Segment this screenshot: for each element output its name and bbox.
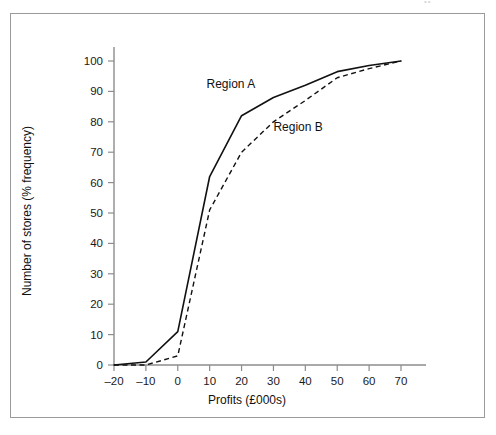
figure-root: •• 0102030405060708090100 –20–1001020304…	[0, 0, 496, 435]
x-axis-tick-label: 10	[203, 375, 216, 387]
x-axis-tick-label: 70	[395, 375, 408, 387]
y-axis-tick-label: 90	[90, 85, 103, 97]
cumulative-frequency-chart: 0102030405060708090100 –20–1001020304050…	[11, 14, 483, 416]
y-axis-tick-label: 50	[90, 207, 103, 219]
x-axis: –20–10010203040506070	[104, 365, 426, 387]
x-axis-tick-label: 0	[175, 375, 181, 387]
x-axis-tick-label: 60	[363, 375, 376, 387]
y-axis-tick-label: 80	[90, 116, 103, 128]
y-axis-tick-label: 30	[90, 268, 103, 280]
series-label-region-a: Region A	[206, 77, 255, 91]
y-axis-tick-label: 70	[90, 146, 103, 158]
y-axis: 0102030405060708090100	[84, 47, 114, 371]
series-label-region-b: Region B	[273, 120, 322, 134]
y-axis-tick-label: 100	[84, 55, 103, 67]
x-axis-tick-label: 20	[235, 375, 248, 387]
x-axis-tick-label: 50	[331, 375, 344, 387]
x-axis-tick-label: 30	[267, 375, 280, 387]
x-axis-tick-label: –20	[104, 375, 123, 387]
x-axis-tick-label: 40	[299, 375, 312, 387]
y-axis-tick-label: 10	[90, 329, 103, 341]
y-axis-tick-label: 0	[97, 359, 103, 371]
x-axis-tick-label: –10	[136, 375, 155, 387]
data-series-group	[114, 61, 401, 365]
series-line-region-a	[114, 61, 401, 365]
x-axis-title: Profits (£000s)	[208, 393, 286, 407]
y-axis-tick-label: 60	[90, 177, 103, 189]
y-axis-title: Number of stores (% frequency)	[20, 126, 34, 296]
y-axis-tick-label: 20	[90, 298, 103, 310]
figure-frame-border: 0102030405060708090100 –20–1001020304050…	[10, 13, 485, 418]
page-header-remnant: ••	[424, 0, 468, 8]
y-axis-tick-label: 40	[90, 237, 103, 249]
